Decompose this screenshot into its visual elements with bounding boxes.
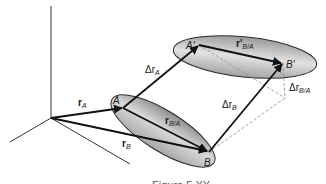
vector-r-a xyxy=(51,108,122,118)
rigid-body-relative-motion-diagram: A B A' B' rA rB rB/A r'B/A ΔrA ΔrB ΔrB/A… xyxy=(0,0,326,184)
label-delta-r-b: ΔrB xyxy=(222,99,237,111)
vector-delta-r-a xyxy=(123,46,198,108)
label-delta-r-a: ΔrA xyxy=(145,64,160,76)
label-r-a: rA xyxy=(78,97,87,109)
axis-right xyxy=(51,118,130,164)
coordinate-axes xyxy=(10,6,130,164)
body-displaced xyxy=(171,30,318,85)
axis-left xyxy=(10,118,51,142)
point-a-prime-label: A' xyxy=(185,40,196,51)
label-delta-r-ba: ΔrB/A xyxy=(289,82,311,94)
point-b-prime-label: B' xyxy=(286,59,296,70)
point-b-label: B xyxy=(204,157,211,168)
label-r-b: rB xyxy=(122,138,131,150)
point-a-label: A xyxy=(112,95,120,106)
figure-caption: Figure 5.XX xyxy=(152,179,211,184)
